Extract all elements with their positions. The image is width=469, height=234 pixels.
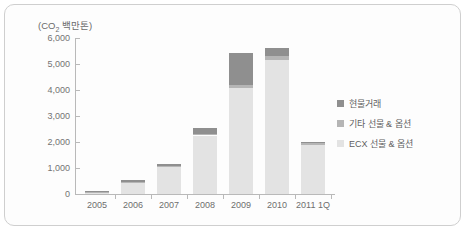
y-tick-mark xyxy=(75,116,80,117)
x-tick-mark xyxy=(151,194,152,199)
y-tick-mark xyxy=(75,194,80,195)
legend-label: 현물거래 xyxy=(349,97,381,110)
y-tick-mark xyxy=(75,38,80,39)
x-tick-label: 2006 xyxy=(123,200,143,210)
y-tick-label: 4,000 xyxy=(28,85,70,95)
bar-segment xyxy=(157,166,181,168)
x-tick-label: 2005 xyxy=(87,200,107,210)
y-tick-label: 6,000 xyxy=(28,33,70,43)
bar-segment xyxy=(301,142,325,144)
y-tick-label: 0 xyxy=(28,189,70,199)
x-tick-label: 2009 xyxy=(231,200,251,210)
bar-segment xyxy=(265,60,289,194)
y-tick-mark xyxy=(75,142,80,143)
legend-swatch-icon xyxy=(337,100,344,107)
x-tick-label: 2010 xyxy=(267,200,287,210)
x-tick-label: 2008 xyxy=(195,200,215,210)
y-tick-mark xyxy=(75,90,80,91)
unit-suffix: 백만톤) xyxy=(59,20,92,31)
bar-segment xyxy=(301,143,325,144)
bar-segment xyxy=(301,145,325,194)
legend-label: 기타 선물 & 옵션 xyxy=(349,117,411,130)
bar-segment xyxy=(193,136,217,195)
bar-segment xyxy=(265,48,289,56)
bar-segment xyxy=(85,191,109,192)
x-tick-mark xyxy=(259,194,260,199)
bar-segment xyxy=(193,128,217,134)
legend-item[interactable]: 기타 선물 & 옵션 xyxy=(337,117,413,130)
legend-item[interactable]: 현물거래 xyxy=(337,97,413,110)
bar-segment xyxy=(229,53,253,85)
chart-container: (CO2 백만톤) 01,0002,0003,0004,0005,0006,00… xyxy=(0,0,469,234)
y-tick-mark xyxy=(75,64,80,65)
chart-legend: 현물거래기타 선물 & 옵션ECX 선물 & 옵션 xyxy=(337,97,413,157)
bar-segment xyxy=(229,85,253,88)
legend-swatch-icon xyxy=(337,140,344,147)
bar-segment xyxy=(157,167,181,194)
x-tick-label: 2007 xyxy=(159,200,179,210)
bar-segment xyxy=(121,180,145,182)
unit-prefix: (CO xyxy=(38,20,55,31)
x-tick-mark xyxy=(187,194,188,199)
x-tick-mark xyxy=(115,194,116,199)
bar-segment xyxy=(229,88,253,194)
bar-segment xyxy=(265,56,289,60)
x-axis-line xyxy=(75,194,335,195)
legend-label: ECX 선물 & 옵션 xyxy=(349,137,413,150)
bar-segment xyxy=(157,164,181,166)
bar-segment xyxy=(121,182,145,184)
bar-segment xyxy=(85,192,109,194)
bar-segment xyxy=(121,183,145,194)
y-tick-label: 5,000 xyxy=(28,59,70,69)
x-tick-mark xyxy=(223,194,224,199)
legend-swatch-icon xyxy=(337,120,344,127)
y-tick-label: 2,000 xyxy=(28,137,70,147)
y-tick-label: 1,000 xyxy=(28,163,70,173)
y-tick-mark xyxy=(75,168,80,169)
y-tick-label: 3,000 xyxy=(28,111,70,121)
x-tick-label: 2011 1Q xyxy=(296,200,330,210)
y-axis-unit-label: (CO2 백만톤) xyxy=(38,18,92,33)
x-tick-mark xyxy=(295,194,296,199)
x-tick-mark xyxy=(331,194,332,199)
legend-item[interactable]: ECX 선물 & 옵션 xyxy=(337,137,413,150)
bar-segment xyxy=(193,134,217,136)
